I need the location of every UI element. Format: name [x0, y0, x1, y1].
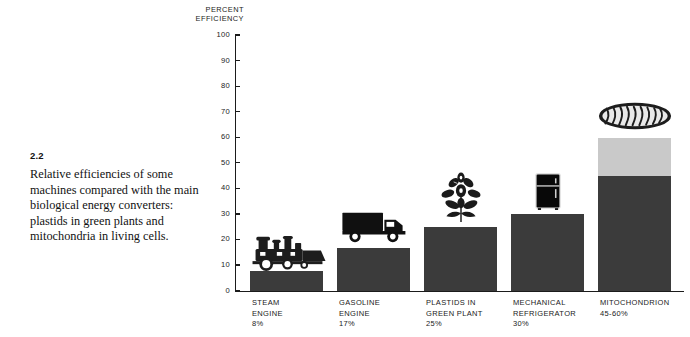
y-axis-tick-label: 50 — [196, 158, 230, 167]
y-axis-tick — [235, 162, 240, 163]
category-label-line2: REFRIGERATOR — [513, 309, 612, 320]
category-value-label: 8% — [252, 319, 351, 330]
efficiency-bar-chart: PERCENTEFFICIENCY 1009080706050403020100… — [0, 0, 690, 337]
bar — [424, 227, 497, 291]
y-axis-tick-label: 70 — [196, 107, 230, 116]
y-axis-tick-label: 20 — [196, 234, 230, 243]
y-axis-tick — [235, 60, 240, 61]
y-axis-tick-label: 100 — [196, 30, 230, 39]
category-label: MITOCHONDRION45-60% — [600, 298, 690, 319]
category-label-line1: STEAM — [252, 298, 351, 309]
steam-locomotive-icon — [251, 232, 327, 276]
y-axis-title: PERCENTEFFICIENCY — [190, 5, 244, 24]
y-axis-tick — [235, 264, 240, 265]
category-label-line2: GREEN PLANT — [426, 309, 525, 320]
y-axis-tick — [235, 213, 240, 214]
y-axis-tick-label: 60 — [196, 132, 230, 141]
y-axis-tick-label: 0 — [196, 286, 230, 295]
y-axis-tick — [235, 188, 240, 189]
y-axis-tick — [235, 111, 240, 112]
bar — [337, 248, 410, 291]
y-axis-tick-label: 30 — [196, 209, 230, 218]
mitochondrion-icon — [598, 101, 672, 135]
category-value-label: 25% — [426, 319, 525, 330]
category-value-label: 30% — [513, 319, 612, 330]
y-axis-tick-label: 40 — [196, 183, 230, 192]
category-label: PLASTIDS INGREEN PLANT25% — [426, 298, 525, 330]
category-label-line2: ENGINE — [252, 309, 351, 320]
category-label: MECHANICALREFRIGERATOR30% — [513, 298, 612, 330]
y-axis-tick — [235, 239, 240, 240]
y-axis-tick — [235, 86, 240, 87]
category-label-line2: ENGINE — [339, 309, 438, 320]
category-label: STEAMENGINE8% — [252, 298, 351, 330]
y-axis-tick-label: 10 — [196, 260, 230, 269]
bar-range-segment — [598, 138, 671, 176]
green-plant-icon — [439, 171, 483, 229]
category-label-line1: PLASTIDS IN — [426, 298, 525, 309]
category-value-label: 45-60% — [600, 309, 690, 320]
y-axis-tick — [235, 137, 240, 138]
category-label-line1: GASOLINE — [339, 298, 438, 309]
y-axis-tick — [235, 34, 240, 35]
bar — [598, 138, 671, 291]
bar — [511, 214, 584, 291]
category-value-label: 17% — [339, 319, 438, 330]
category-label-line1: MECHANICAL — [513, 298, 612, 309]
category-label: GASOLINEENGINE17% — [339, 298, 438, 330]
y-axis-tick-label: 80 — [196, 81, 230, 90]
delivery-truck-icon — [341, 210, 411, 249]
category-label-line1: MITOCHONDRION — [600, 298, 690, 309]
refrigerator-icon — [534, 172, 562, 214]
y-axis-tick — [235, 290, 240, 291]
y-axis-tick-label: 90 — [196, 56, 230, 65]
